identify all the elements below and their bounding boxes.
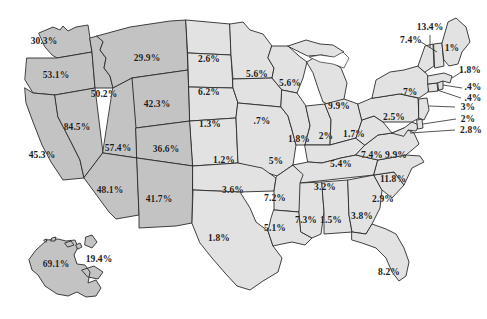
state-TX — [192, 190, 282, 290]
state-label-ME: 1% — [445, 43, 459, 53]
state-label-TN: 3.2% — [314, 182, 336, 192]
state-MA — [428, 73, 452, 84]
state-label-HI: 19.4% — [86, 254, 113, 264]
state-NM — [137, 158, 193, 228]
state-label-MT: 29.9% — [134, 53, 161, 63]
leader-line-RI — [443, 85, 462, 88]
state-label-MD: 2.8% — [460, 125, 482, 135]
state-label-LA: 5.1% — [264, 223, 286, 233]
state-label-SD: 6.2% — [198, 87, 220, 97]
state-ME — [442, 18, 470, 66]
state-label-OK: 3.6% — [222, 185, 244, 195]
state-label-TX: 1.8% — [208, 233, 230, 243]
state-label-KS: 1.2% — [213, 155, 235, 165]
state-label-WV: 7.4% — [361, 150, 383, 160]
state-label-NC: 11.8% — [380, 174, 406, 184]
state-label-IA: .7% — [254, 116, 271, 126]
state-label-ID: 50.2% — [91, 89, 118, 99]
state-label-AL: 1.5% — [320, 215, 342, 225]
state-label-WI: 5.6% — [279, 78, 301, 88]
state-label-AK: 69.1% — [43, 259, 70, 269]
state-label-OH: 1.7% — [343, 129, 365, 139]
state-label-ND: 2.6% — [198, 54, 220, 64]
state-label-DE: 2% — [461, 114, 475, 124]
state-label-GA: 3.8% — [351, 211, 373, 221]
state-label-MI: 9.9% — [328, 101, 350, 111]
state-label-SC: 2.9% — [372, 194, 394, 204]
state-label-NV: 84.5% — [64, 122, 91, 132]
us-choropleth-map: 30.3% 53.1% 45.3% 84.5% 50.2% 29.9% 42.3… — [0, 0, 487, 319]
leader-line-DE — [423, 119, 456, 124]
state-label-VT: 13.4% — [417, 22, 444, 32]
state-label-NJ: 3% — [461, 102, 475, 112]
map-canvas — [0, 0, 487, 319]
state-label-MS: 7.3% — [295, 215, 317, 225]
state-label-NY: .7% — [401, 87, 418, 97]
state-label-VA: 9.9% — [385, 150, 407, 160]
state-label-MA: 1.8% — [459, 65, 481, 75]
leader-line-NJ — [429, 106, 455, 107]
state-label-IL: 1.8% — [288, 134, 310, 144]
state-IA — [233, 78, 282, 107]
state-MD — [392, 122, 419, 136]
state-label-CA: 45.3% — [29, 150, 56, 160]
state-ND — [186, 20, 231, 55]
state-label-NE: 1.3% — [199, 119, 221, 129]
state-label-CO: 36.6% — [153, 144, 180, 154]
state-label-CT: .4% — [465, 93, 482, 103]
state-label-RI: .4% — [465, 82, 482, 92]
state-label-AR: 7.2% — [264, 193, 286, 203]
state-label-FL: 8.2% — [378, 267, 400, 277]
state-DE — [417, 119, 423, 129]
state-label-NH: 7.4% — [400, 35, 422, 45]
state-label-UT: 57.4% — [105, 143, 132, 153]
state-label-KY: 5.4% — [330, 159, 352, 169]
state-label-AZ: 48.1% — [97, 185, 124, 195]
state-label-MO: 5% — [269, 156, 283, 166]
state-CT — [428, 83, 438, 92]
state-GA — [348, 175, 382, 234]
state-NJ — [419, 98, 429, 120]
state-label-MN: 5.6% — [246, 69, 268, 79]
state-label-PA: 2.5% — [383, 112, 405, 122]
leader-line-CT — [437, 90, 461, 98]
state-label-IN: 2% — [319, 131, 333, 141]
state-label-WY: 42.3% — [144, 99, 171, 109]
state-label-OR: 53.1% — [43, 70, 70, 80]
state-label-WA: 30.3% — [31, 36, 58, 46]
state-label-NM: 41.7% — [146, 194, 173, 204]
